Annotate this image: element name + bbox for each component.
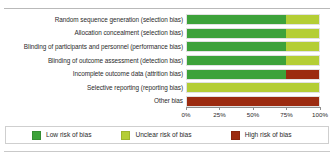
axis-tick-label: 100%: [312, 111, 328, 119]
bias-bar: [186, 55, 320, 66]
legend-label: Low risk of bias: [46, 131, 91, 139]
bias-segment-high: [187, 97, 319, 106]
bias-segment-low: [187, 29, 286, 38]
bias-row-label: Incomplete outcome data (attrition bias): [0, 70, 186, 78]
legend-label: Unclear risk of bias: [135, 131, 191, 139]
axis-tick-label: 25%: [213, 111, 225, 119]
axis-tick-label: 50%: [247, 111, 259, 119]
legend-swatch-icon: [231, 131, 240, 140]
axis-tick-label: 0%: [182, 111, 191, 119]
bias-row: Incomplete outcome data (attrition bias): [0, 67, 334, 81]
legend-label: High risk of bias: [245, 131, 292, 139]
bias-bar: [186, 28, 320, 39]
bias-bar: [186, 41, 320, 52]
bias-row: Blinding of participants and personnel (…: [0, 40, 334, 54]
legend-swatch-icon: [32, 131, 41, 140]
bias-row: Blinding of outcome assessment (detectio…: [0, 54, 334, 68]
axis-tick-label: 75%: [280, 111, 292, 119]
bias-bar: [186, 69, 320, 80]
plot-area: Random sequence generation (selection bi…: [0, 13, 334, 109]
chart-legend: Low risk of biasUnclear risk of biasHigh…: [5, 126, 329, 144]
legend-item: Unclear risk of bias: [115, 131, 224, 140]
legend-swatch-icon: [121, 131, 130, 140]
bias-segment-unclear: [187, 83, 319, 92]
bias-segment-unclear: [286, 56, 319, 65]
bias-row: Allocation concealment (selection bias): [0, 27, 334, 41]
bias-bar: [186, 82, 320, 93]
bias-row: Selective reporting (reporting bias): [0, 81, 334, 95]
bias-segment-unclear: [286, 15, 319, 24]
bias-bar: [186, 14, 320, 25]
bias-segment-unclear: [286, 29, 319, 38]
bias-row-label: Blinding of outcome assessment (detectio…: [0, 57, 186, 65]
bias-segment-high: [286, 70, 319, 79]
axis-tick: [219, 107, 220, 110]
bias-segment-low: [187, 15, 286, 24]
bias-segment-low: [187, 70, 286, 79]
bottom-divider: [4, 151, 330, 152]
top-divider: [4, 8, 330, 9]
bias-row-label: Allocation concealment (selection bias): [0, 29, 186, 37]
legend-item: High risk of bias: [225, 131, 328, 140]
bias-row-label: Blinding of participants and personnel (…: [0, 43, 186, 51]
bias-row-label: Selective reporting (reporting bias): [0, 84, 186, 92]
bias-segment-low: [187, 42, 286, 51]
axis-tick: [253, 107, 254, 110]
x-axis: 0%25%50%75%100%: [186, 107, 320, 123]
bias-row: Random sequence generation (selection bi…: [0, 13, 334, 27]
bias-row-label: Random sequence generation (selection bi…: [0, 16, 186, 24]
bias-segment-low: [187, 56, 286, 65]
axis-tick: [320, 107, 321, 110]
legend-item: Low risk of bias: [6, 131, 115, 140]
axis-tick: [186, 107, 187, 110]
axis-tick: [286, 107, 287, 110]
bias-segment-unclear: [286, 42, 319, 51]
bias-bar: [186, 96, 320, 107]
risk-of-bias-graph: Random sequence generation (selection bi…: [0, 0, 334, 156]
bias-row-label: Other bias: [0, 97, 186, 105]
